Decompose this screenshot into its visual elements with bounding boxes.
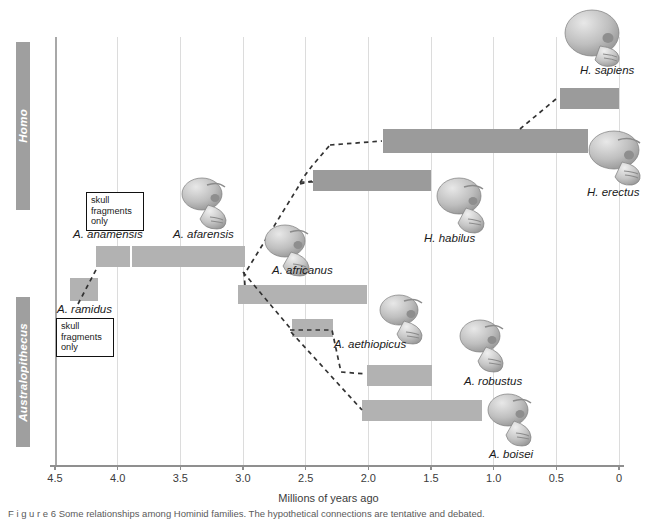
x-axis-tick <box>618 465 619 470</box>
note-box-ramidus: skull fragments only <box>56 318 114 357</box>
x-axis-tick-label: 4.5 <box>47 472 62 484</box>
skull-icon-a-robustus <box>460 320 503 372</box>
clade-bar-australopithecus: Australopithecus <box>16 297 30 447</box>
range-bar-h-habilus <box>313 170 431 191</box>
range-bar-a-africanus <box>238 285 367 304</box>
x-axis-tick-label: 0 <box>616 472 622 484</box>
species-label-a-ramidus: A. ramidus <box>57 303 112 315</box>
x-axis-tick <box>305 465 306 470</box>
note-line-3: only <box>91 216 139 227</box>
x-axis-title: Millions of years ago <box>0 492 657 504</box>
clade-label-homo: Homo <box>17 109 29 143</box>
skull-icon-h-erectus <box>589 131 640 185</box>
note-line-1: skull <box>61 321 109 332</box>
x-axis-tick-label: 4.0 <box>110 472 125 484</box>
note-line-1: skull <box>91 195 139 206</box>
note-line-2: fragments <box>91 206 139 217</box>
skull-icon-h-habilus <box>437 178 484 233</box>
note-line-3: only <box>61 342 109 353</box>
note-box-anamensis: skull fragments only <box>86 192 144 231</box>
x-axis-tick <box>242 465 243 470</box>
clade-bar-homo: Homo <box>16 42 30 210</box>
range-bar-a-boisei <box>362 400 482 421</box>
x-axis-tick-label: 0.5 <box>549 472 564 484</box>
skull-icon-a-boisei <box>488 394 531 446</box>
gridline <box>305 37 306 465</box>
species-label-a-afarensis: A. afarensis <box>173 228 234 240</box>
range-bar-a-afarensis <box>132 246 245 267</box>
x-axis-tick-label: 2.5 <box>298 472 313 484</box>
species-label-h-sapiens: H. sapiens <box>580 64 634 76</box>
clade-label-australopithecus: Australopithecus <box>17 323 29 422</box>
range-bar-h-sapiens <box>560 88 619 109</box>
species-label-a-robustus: A. robustus <box>464 375 522 387</box>
gridline <box>556 37 557 465</box>
x-axis-tick <box>430 465 431 470</box>
species-label-h-erectus: H. erectus <box>587 186 639 198</box>
x-axis-tick <box>54 465 55 470</box>
range-bar-a-anamensis <box>96 246 130 267</box>
species-label-a-aethiopicus: A. aethiopicus <box>334 338 406 350</box>
range-bar-a-robustus <box>367 365 432 386</box>
range-bar-a-aethiopicus <box>292 319 333 337</box>
skull-icon-a-aethiopicus <box>380 295 422 344</box>
species-label-a-boisei: A. boisei <box>489 448 533 460</box>
skull-icon-h-sapiens <box>565 10 619 66</box>
figure-caption: F i g u r e 6 Some relationships among H… <box>8 508 648 528</box>
species-label-a-africanus: A. africanus <box>272 264 333 276</box>
note-line-2: fragments <box>61 332 109 343</box>
x-axis-tick <box>556 465 557 470</box>
x-axis-tick-label: 1.5 <box>423 472 438 484</box>
x-axis-tick <box>180 465 181 470</box>
x-axis-tick <box>493 465 494 470</box>
skull-icon-a-afarensis <box>182 178 226 229</box>
species-label-h-habilus: H. habilus <box>424 232 475 244</box>
x-axis-tick-label: 1.0 <box>486 472 501 484</box>
range-bar-a-ramidus <box>70 278 98 301</box>
x-axis-tick <box>368 465 369 470</box>
x-axis-tick-label: 3.5 <box>173 472 188 484</box>
x-axis-tick-label: 3.0 <box>235 472 250 484</box>
x-axis-tick <box>117 465 118 470</box>
gridline <box>493 37 494 465</box>
y-axis-line <box>55 37 57 465</box>
x-axis-line <box>50 465 624 467</box>
x-axis-tick-label: 2.0 <box>361 472 376 484</box>
range-bar-h-erectus <box>383 129 588 153</box>
